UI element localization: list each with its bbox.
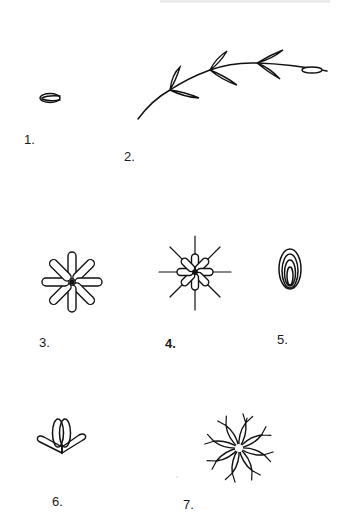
figure-4-spoked-star-drawing: [159, 236, 231, 310]
speck: [176, 476, 177, 477]
figure-5-label: 5.: [277, 333, 288, 346]
figure-6-label: 6.: [52, 495, 63, 508]
figure-4-label: 4.: [165, 337, 176, 350]
figure-7-label: 7.: [183, 498, 194, 511]
figure-canvas: [0, 0, 341, 515]
figure-3-star-drawing: [42, 252, 102, 312]
figure-3-label: 3.: [39, 336, 50, 349]
figure-7-forked-star-drawing: [197, 406, 280, 489]
figure-1-seed-drawing: [40, 94, 60, 103]
figure-1-label: 1.: [24, 133, 35, 146]
figure-6-loops-with-arms-drawing: [37, 419, 85, 453]
figure-2-label: 2.: [124, 150, 135, 163]
figure-2-branch-drawing: [138, 50, 327, 119]
figure-5-nested-ovals-drawing: [279, 249, 301, 289]
